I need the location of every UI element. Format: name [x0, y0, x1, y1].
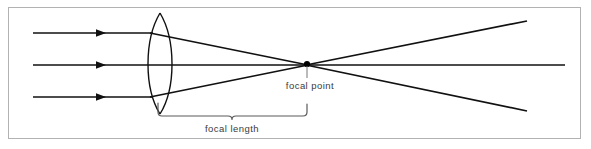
focal-length-label: focal length — [205, 123, 259, 134]
focal-length-brace — [158, 103, 307, 120]
upper-diverging-ray — [306, 21, 527, 65]
lens-right-surface — [160, 13, 172, 114]
upper-ray-arrow-icon — [96, 29, 106, 37]
lower-ray-arrow-icon — [96, 93, 106, 101]
figure-root: focal point focal length — [0, 0, 591, 149]
upper-converging-ray — [150, 33, 308, 65]
optics-ray-diagram: focal point focal length — [0, 0, 591, 149]
lower-diverging-ray — [306, 65, 527, 111]
axial-ray-arrow-icon — [96, 61, 106, 69]
focal-point-label: focal point — [286, 80, 334, 91]
lower-converging-ray — [150, 65, 308, 97]
lens-left-surface — [148, 13, 160, 114]
